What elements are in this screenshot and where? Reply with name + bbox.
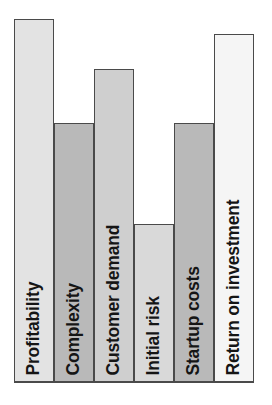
bar-return-on-investment: Return on investment	[214, 34, 254, 383]
bar-label-initial-risk: Initial risk	[145, 296, 163, 375]
bar-initial-risk: Initial risk	[134, 224, 174, 383]
bar-customer-demand: Customer demand	[94, 69, 134, 383]
bar-startup-costs: Startup costs	[174, 123, 214, 383]
bar-label-customer-demand: Customer demand	[105, 224, 123, 375]
bar-label-return-on-investment: Return on investment	[225, 199, 243, 375]
bar-label-profitability: Profitability	[25, 281, 43, 375]
bar-chart: Profitability Complexity Customer demand…	[0, 0, 272, 405]
bar-label-complexity: Complexity	[65, 283, 83, 375]
bar-label-startup-costs: Startup costs	[185, 266, 203, 375]
bar-complexity: Complexity	[54, 123, 94, 383]
plot-area: Profitability Complexity Customer demand…	[14, 0, 254, 383]
axis-baseline	[14, 381, 254, 383]
bar-profitability: Profitability	[14, 19, 54, 383]
